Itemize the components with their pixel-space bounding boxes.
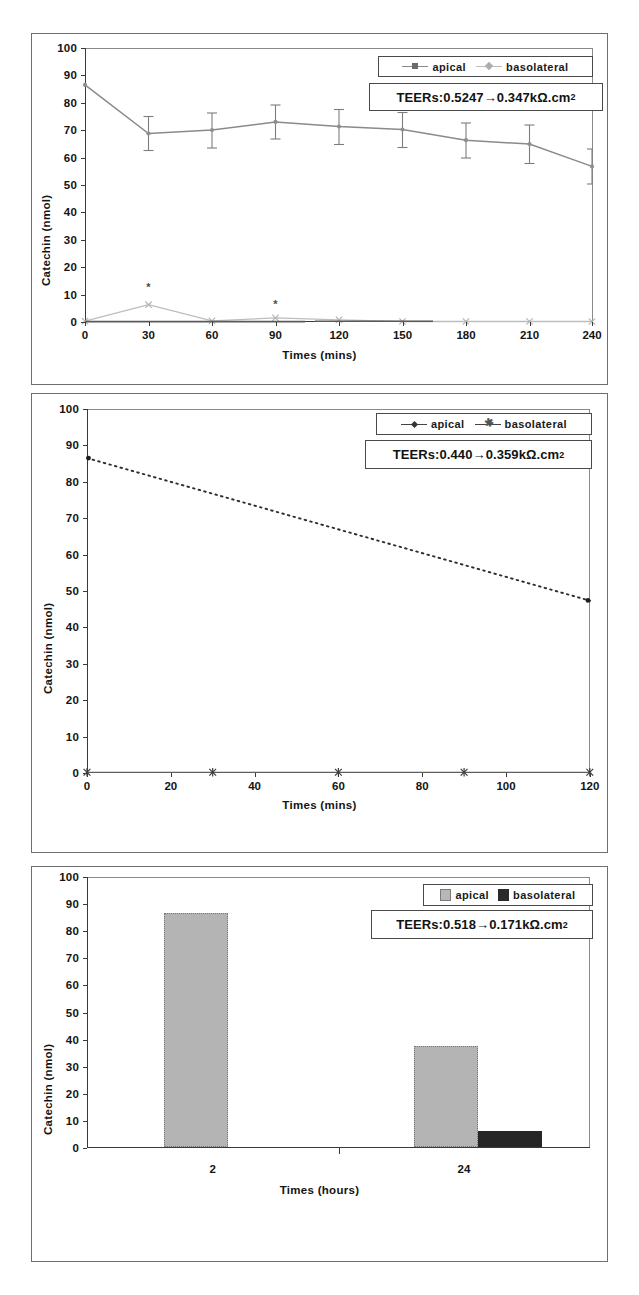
panel-b-x-axis-title: Times (mins) <box>32 799 607 811</box>
legend-item-basolateral[interactable]: basolateral <box>498 889 575 901</box>
panel-a: Catechin (nmol) <box>31 33 608 385</box>
y-tick-label: 100 <box>47 403 79 415</box>
teer-unit: kΩ.cm <box>519 447 560 462</box>
panel-b-y-axis-title: Catechin (nmol) <box>42 603 54 694</box>
y-tick-label: 50 <box>47 1007 79 1019</box>
legend-item-basolateral[interactable]: ✱ basolateral <box>475 418 567 430</box>
y-tick-label: 60 <box>45 152 77 164</box>
y-tick-label: 70 <box>45 124 77 136</box>
y-tick-label: 10 <box>47 731 79 743</box>
plot-y-axis <box>87 877 88 1148</box>
legend-item-apical[interactable]: apical <box>401 418 465 430</box>
x-tick-label: 120 <box>580 780 599 792</box>
x-tick-label: 150 <box>393 329 412 341</box>
x-tick-label: 120 <box>329 329 348 341</box>
teer-prefix: TEERs: <box>393 447 440 462</box>
y-tick-label: 20 <box>47 694 79 706</box>
legend-label-basolateral: basolateral <box>513 889 575 901</box>
y-tick-label: 80 <box>47 925 79 937</box>
y-tick-label: 60 <box>47 979 79 991</box>
teer-to: 0.347 <box>497 90 530 105</box>
y-tick-label: 80 <box>45 97 77 109</box>
teer-unit: kΩ.cm <box>522 917 563 932</box>
teer-prefix: TEERs: <box>396 917 443 932</box>
x-tick-label: 100 <box>496 780 515 792</box>
x-tick-label: 240 <box>582 329 601 341</box>
teer-unit: kΩ.cm <box>530 90 571 105</box>
teer-prefix: TEERs: <box>396 90 443 105</box>
y-tick-label: 90 <box>47 898 79 910</box>
x-tick-label: 210 <box>520 329 539 341</box>
teer-exponent: 2 <box>570 92 575 102</box>
teer-arrow-icon: → <box>473 447 486 462</box>
x-tick-label: 24 <box>458 1163 471 1175</box>
legend-label-apical: apical <box>455 889 489 901</box>
teer-exponent: 2 <box>563 920 568 930</box>
y-tick-label: 40 <box>45 206 77 218</box>
apical-swatch-icon <box>440 889 451 901</box>
x-tick-label: 40 <box>248 780 261 792</box>
bar-apical-24h <box>414 1046 478 1147</box>
panel-c: Catechin (nmol) 0 10 20 30 40 50 60 70 8… <box>31 866 608 1262</box>
panel-b-teer-annotation: TEERs: 0.440→0.359 kΩ.cm2 <box>365 440 592 469</box>
y-tick-label: 0 <box>45 316 77 328</box>
teer-exponent: 2 <box>559 450 564 460</box>
teer-to: 0.359 <box>486 447 519 462</box>
x-tick-label: 20 <box>164 780 177 792</box>
x-tick-label: 0 <box>82 329 88 341</box>
y-tick-label: 70 <box>47 952 79 964</box>
y-tick-label: 20 <box>47 1088 79 1100</box>
legend-label-apical: apical <box>432 61 466 73</box>
y-tick-label: 10 <box>45 289 77 301</box>
teer-from: 0.518 <box>443 917 476 932</box>
panel-a-teer-annotation: TEERs: 0.5247→0.347 kΩ.cm2 <box>369 83 603 111</box>
legend-label-basolateral: basolateral <box>506 61 568 73</box>
y-tick-label: 90 <box>47 439 79 451</box>
y-tick-label: 0 <box>47 1142 79 1154</box>
teer-to: 0.171 <box>489 917 522 932</box>
panel-a-legend[interactable]: apical basolateral <box>378 56 593 77</box>
x-tick-label: 80 <box>416 780 429 792</box>
significance-asterisk: * <box>146 282 150 293</box>
legend-item-apical[interactable]: apical <box>440 889 489 901</box>
panel-c-legend[interactable]: apical basolateral <box>423 884 593 906</box>
y-tick-label: 60 <box>47 549 79 561</box>
legend-label-basolateral: basolateral <box>505 418 567 430</box>
legend-item-apical[interactable]: apical <box>402 61 466 73</box>
basolateral-star-marker-icon: ✱ <box>475 420 501 429</box>
apical-line-marker-icon <box>402 62 428 71</box>
legend-label-apical: apical <box>431 418 465 430</box>
legend-item-basolateral[interactable]: basolateral <box>476 61 568 73</box>
y-tick-label: 10 <box>47 1115 79 1127</box>
x-tick-label: 2 <box>209 1163 215 1175</box>
teer-from: 0.5247 <box>443 90 483 105</box>
teer-from: 0.440 <box>439 447 472 462</box>
y-tick-label: 90 <box>45 69 77 81</box>
x-tick-label: 90 <box>269 329 282 341</box>
apical-diamond-marker-icon <box>401 420 427 429</box>
significance-asterisk: * <box>273 299 277 310</box>
y-tick-label: 0 <box>47 767 79 779</box>
bar-basolateral-24h <box>478 1131 542 1147</box>
panel-a-x-axis-title: Times (mins) <box>32 349 607 361</box>
y-tick-label: 100 <box>45 42 77 54</box>
y-tick-label: 40 <box>47 1034 79 1046</box>
y-tick-label: 30 <box>47 658 79 670</box>
teer-arrow-icon: → <box>476 917 489 932</box>
y-tick-label: 30 <box>45 234 77 246</box>
y-tick-label: 40 <box>47 621 79 633</box>
x-tick-label: 180 <box>456 329 475 341</box>
bar-apical-2h <box>164 913 228 1147</box>
x-tick-label: 60 <box>206 329 219 341</box>
panel-b-legend[interactable]: apical ✱ basolateral <box>376 413 592 435</box>
apical-series-line <box>87 458 590 601</box>
basolateral-swatch-icon <box>498 889 509 901</box>
y-tick-label: 80 <box>47 476 79 488</box>
figure-root: Catechin (nmol) <box>0 0 639 1295</box>
plot-frame-top <box>87 877 590 878</box>
y-tick-label: 30 <box>47 1061 79 1073</box>
panel-b: Catechin (nmol) <box>31 393 608 853</box>
panel-c-teer-annotation: TEERs: 0.518→0.171 kΩ.cm2 <box>371 910 593 939</box>
basolateral-line-marker-icon <box>476 62 502 71</box>
panel-c-x-axis-title: Times (hours) <box>32 1184 607 1196</box>
